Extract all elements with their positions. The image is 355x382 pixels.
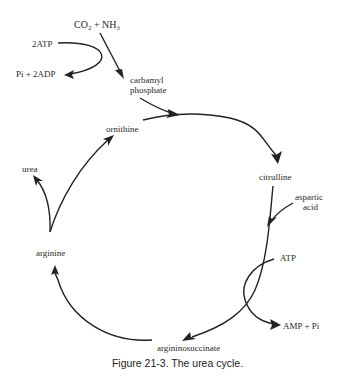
- figure-caption: Figure 21-3. The urea cycle.: [0, 357, 355, 369]
- arrow-argininosuccinate-to-arginine: [53, 270, 152, 340]
- arrowhead: [267, 216, 277, 227]
- label-argininosuccinate: argininosuccinate: [157, 343, 220, 353]
- arrow-arginine-to-ornithine: [50, 140, 108, 232]
- arrow-atp-to-amp: [244, 259, 274, 324]
- label-aspartic: aspartic: [295, 192, 323, 202]
- label-arginine: arginine: [36, 248, 65, 258]
- label-citrulline: citrulline: [259, 172, 292, 182]
- label-2atp: 2ATP: [32, 39, 53, 49]
- arrowhead: [271, 151, 282, 164]
- arrowhead: [103, 135, 114, 146]
- urea-cycle-diagram: CO₂ + NH₃ 2ATP Pi + 2ADP carbamyl phosph…: [0, 0, 355, 382]
- label-atp: ATP: [280, 253, 296, 263]
- arrowhead: [270, 319, 281, 330]
- arrow-citrulline-to-argininosuccinate: [192, 186, 273, 337]
- arrow-2atp-to-2adp: [58, 43, 102, 74]
- label-ornithine: ornithine: [106, 124, 139, 134]
- arrow-co2-to-carbamyl: [100, 33, 121, 73]
- arrowhead: [166, 109, 180, 118]
- arrowhead: [115, 64, 124, 79]
- arrowhead: [64, 70, 74, 79]
- arrow-aspartic-to-cycle: [272, 203, 293, 220]
- label-carbamyl: carbamyl: [130, 75, 163, 85]
- label-phosphate: phosphate: [130, 85, 167, 95]
- arrow-arginine-to-urea: [37, 180, 50, 232]
- label-pi-2adp: Pi + 2ADP: [16, 69, 56, 79]
- arrow-ornithine-to-citrulline: [143, 114, 276, 155]
- label-co2-nh3: CO₂ + NH₃: [74, 20, 120, 30]
- label-urea: urea: [22, 164, 38, 174]
- arrow-carbamyl-to-cycle: [140, 98, 172, 113]
- label-acid: acid: [303, 202, 318, 212]
- label-amp-pi: AMP + Pi: [283, 321, 319, 331]
- arrowhead: [33, 175, 43, 186]
